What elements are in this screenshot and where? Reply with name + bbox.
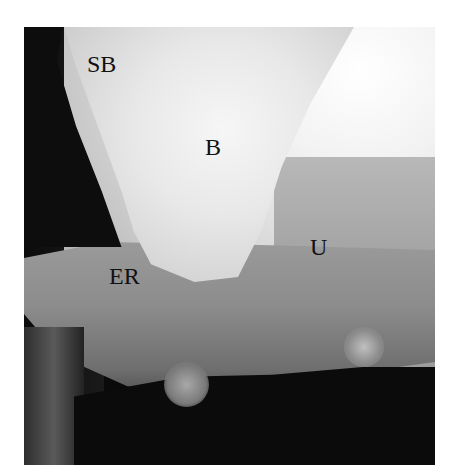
contrast-spot [164,362,209,407]
radiograph-image [24,27,435,465]
contrast-spot [344,327,384,367]
label-u: U [310,235,327,259]
label-er: ER [109,264,140,288]
label-sb: SB [87,52,116,76]
label-b: B [205,135,221,159]
